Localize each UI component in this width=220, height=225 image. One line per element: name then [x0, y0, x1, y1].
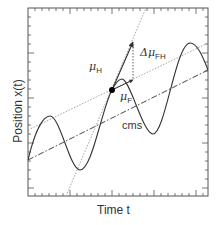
cms-dashed-line [28, 70, 208, 160]
trajectory-curve [28, 43, 208, 170]
intersection-point [109, 87, 115, 93]
steep-dotted-line [66, 8, 146, 196]
diagram-plot [0, 0, 220, 225]
delta-mu-fh-label: ΔμFH [140, 46, 166, 61]
mu-h-label: μH [89, 60, 102, 75]
axis-ticks [28, 8, 208, 196]
mu-f-label: μF [120, 90, 132, 105]
cms-label: cms [122, 119, 142, 131]
x-axis-label: Time t [97, 203, 130, 217]
plot-frame [28, 8, 208, 196]
mu-h-arrow [112, 42, 133, 90]
y-axis-label: Position x(t) [11, 71, 25, 151]
